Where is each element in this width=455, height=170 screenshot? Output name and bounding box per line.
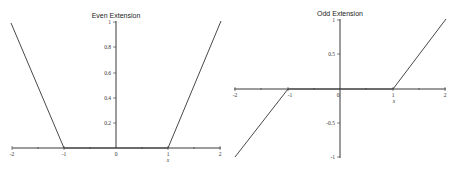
- x-axis-label: x: [392, 98, 396, 104]
- y-tick-label: -1: [330, 154, 335, 160]
- y-tick-label: -0.5: [326, 120, 335, 126]
- y-tick-label: 0.8: [104, 44, 111, 50]
- y-tick-label: 1: [108, 19, 111, 25]
- odd-curve: [235, 19, 446, 157]
- x-tick-label: -2: [10, 151, 15, 157]
- y-tick-label: 0.2: [104, 120, 111, 126]
- x-tick-label: -2: [233, 92, 238, 98]
- figure: Even Extension -2 -1 0 1 2 x 0.2 0.4 0.6…: [0, 0, 455, 170]
- x-tick-label: 0: [337, 92, 340, 98]
- y-tick-label: 1: [332, 17, 335, 23]
- x-tick-label: 2: [444, 92, 447, 98]
- x-tick-label: -1: [288, 92, 293, 98]
- y-tick-label: 0.4: [104, 95, 111, 101]
- chart-title: Even Extension: [92, 12, 141, 19]
- odd-extension-plot: Odd Extension -2 -1 0 1 2 x 1 0.5 -0.5 -…: [233, 10, 447, 160]
- x-tick-label: 2: [219, 151, 222, 157]
- chart-title: Odd Extension: [317, 10, 363, 17]
- x-tick-label: 0: [115, 151, 118, 157]
- x-tick-label: -1: [62, 151, 67, 157]
- y-tick-label: 0.5: [328, 51, 335, 57]
- even-extension-plot: Even Extension -2 -1 0 1 2 x 0.2 0.4 0.6…: [10, 12, 222, 163]
- x-axis-label: x: [166, 157, 170, 163]
- y-tick-label: 0.6: [104, 70, 111, 76]
